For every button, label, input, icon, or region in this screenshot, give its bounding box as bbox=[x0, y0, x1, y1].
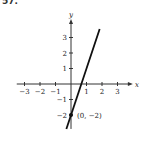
x-tick-label: −3 bbox=[19, 88, 29, 96]
data-point bbox=[69, 113, 73, 117]
x-tick-label: 2 bbox=[100, 88, 104, 96]
x-tick-label: −1 bbox=[50, 88, 60, 96]
x-tick-label: −2 bbox=[35, 88, 45, 96]
line-graph: xy−3−2−1123−2−1123(0, −2) bbox=[0, 0, 143, 145]
y-axis-arrow-icon bbox=[69, 19, 73, 24]
y-tick-label: −1 bbox=[57, 96, 67, 104]
point-annotation: (0, −2) bbox=[77, 112, 102, 120]
x-tick-label: 3 bbox=[115, 88, 119, 96]
y-tick-label: −2 bbox=[57, 112, 67, 120]
y-tick-label: 3 bbox=[63, 34, 67, 42]
x-axis-arrow-icon bbox=[128, 82, 133, 86]
y-tick-label: 2 bbox=[63, 50, 67, 58]
y-tick-label: 1 bbox=[63, 65, 67, 73]
x-axis-label: x bbox=[135, 81, 139, 89]
x-tick-label: 1 bbox=[84, 88, 88, 96]
y-axis-label: y bbox=[68, 11, 74, 19]
